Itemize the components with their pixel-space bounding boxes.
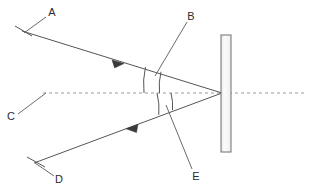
angle-incidence-arc-outer: [144, 67, 146, 93]
diagram-canvas: A B C D E: [0, 0, 313, 191]
leader-line-b: [155, 22, 187, 76]
label-b: B: [187, 10, 194, 22]
incident-ray-line: [22, 31, 222, 93]
label-e: E: [192, 170, 199, 182]
leader-line-e: [166, 105, 192, 169]
reflected-ray-end-tick: [27, 157, 45, 167]
label-c: C: [7, 110, 15, 122]
leader-line-a: [24, 17, 46, 33]
angle-reflection-arc-outer: [157, 93, 159, 115]
reflected-ray-arrowhead-icon: [126, 124, 138, 132]
incident-ray-start-tick: [15, 26, 32, 36]
leader-line-d: [35, 163, 54, 176]
angle-incidence-arc-inner: [159, 72, 161, 93]
angle-reflection-arc-inner: [171, 93, 173, 110]
label-d: D: [55, 173, 63, 185]
label-a: A: [48, 6, 56, 18]
ray-optics-diagram: A B C D E: [0, 0, 313, 191]
leader-line-c: [18, 93, 46, 114]
mirror-surface: [221, 35, 231, 152]
